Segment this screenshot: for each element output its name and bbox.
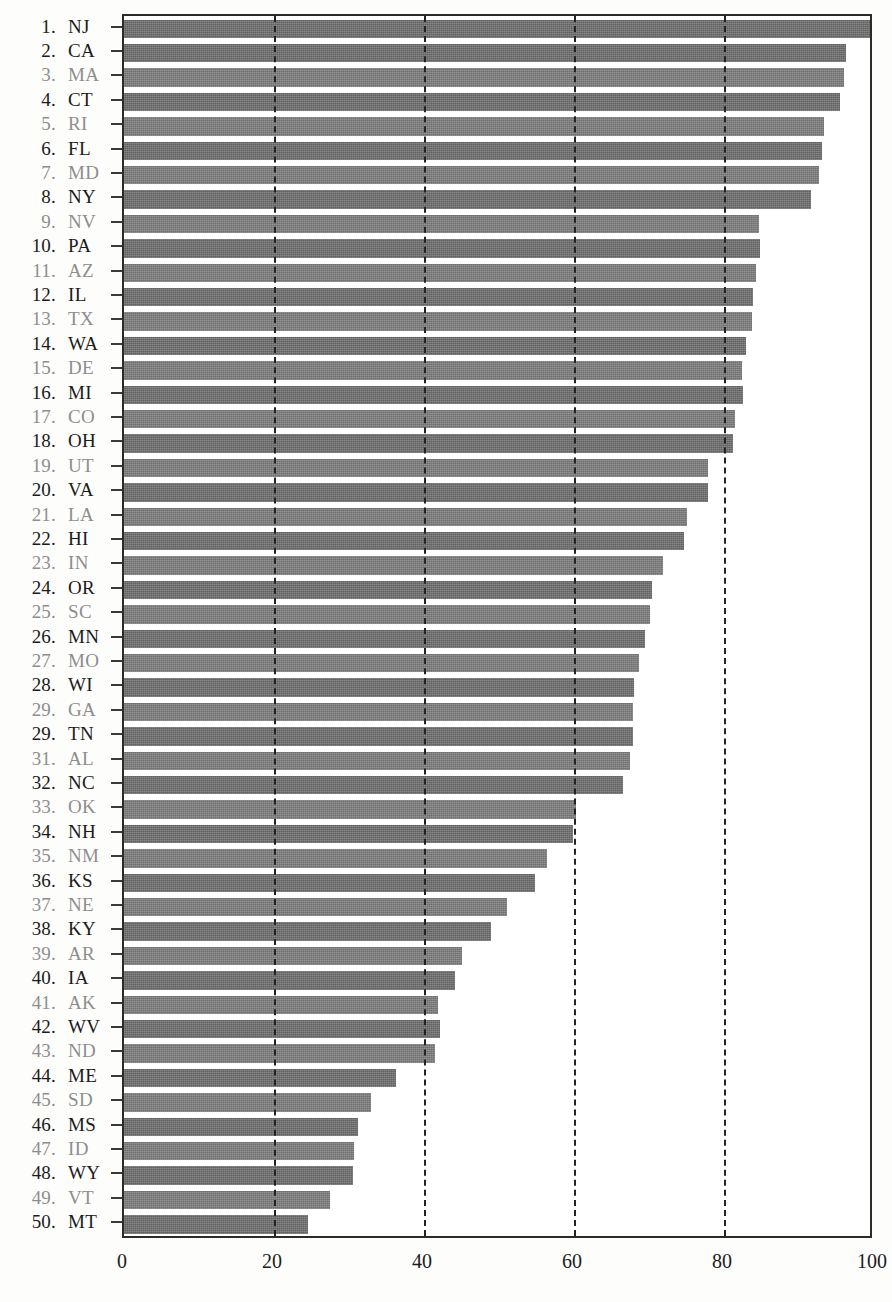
rank-number: 29. <box>10 699 56 721</box>
bar-wi[interactable] <box>124 678 634 697</box>
bar-ny[interactable] <box>124 190 811 209</box>
rank-number: 22. <box>10 528 56 550</box>
y-axis-label-hi: 22.HI <box>0 527 122 551</box>
bar-or[interactable] <box>124 581 652 600</box>
bar-tn[interactable] <box>124 727 633 746</box>
bar-ri[interactable] <box>124 117 824 136</box>
y-axis-label-me: 44.ME <box>0 1064 122 1088</box>
rank-number: 40. <box>10 967 56 989</box>
bar-ok[interactable] <box>124 800 576 819</box>
bar-nd[interactable] <box>124 1044 435 1063</box>
y-axis-tick-mark <box>111 343 122 345</box>
bar-vt[interactable] <box>124 1191 330 1210</box>
bar-ks[interactable] <box>124 874 535 893</box>
bar-tx[interactable] <box>124 312 752 331</box>
bar-il[interactable] <box>124 288 753 307</box>
y-axis-tick-mark <box>111 904 122 906</box>
bar-az[interactable] <box>124 264 756 283</box>
bar-row <box>124 651 872 675</box>
y-axis-label-ma: 3.MA <box>0 63 122 87</box>
rank-number: 11. <box>10 260 56 282</box>
bar-nh[interactable] <box>124 825 573 844</box>
y-axis-label-nj: 1.NJ <box>0 15 122 39</box>
y-axis-label-vt: 49.VT <box>0 1186 122 1210</box>
rank-number: 47. <box>10 1138 56 1160</box>
rank-number: 28. <box>10 674 56 696</box>
y-axis-tick-mark <box>111 977 122 979</box>
bar-wa[interactable] <box>124 337 746 356</box>
bar-ne[interactable] <box>124 898 507 917</box>
y-axis-tick-mark <box>111 782 122 784</box>
bar-de[interactable] <box>124 361 742 380</box>
bar-ca[interactable] <box>124 44 846 63</box>
y-axis-tick-mark <box>111 928 122 930</box>
bar-nm[interactable] <box>124 849 547 868</box>
y-axis-label-ak: 41.AK <box>0 991 122 1015</box>
bar-row <box>124 773 872 797</box>
rank-number: 17. <box>10 406 56 428</box>
bar-mo[interactable] <box>124 654 639 673</box>
bar-me[interactable] <box>124 1069 396 1088</box>
bar-hi[interactable] <box>124 532 684 551</box>
bar-row <box>124 993 872 1017</box>
bar-nj[interactable] <box>124 20 871 39</box>
y-axis-label-va: 20.VA <box>0 478 122 502</box>
bar-al[interactable] <box>124 752 630 771</box>
bar-nc[interactable] <box>124 776 623 795</box>
bar-mn[interactable] <box>124 630 645 649</box>
x-axis-tick-40: 40 <box>412 1250 432 1273</box>
bar-fl[interactable] <box>124 142 822 161</box>
y-axis-label-tx: 13.TX <box>0 307 122 331</box>
bar-ak[interactable] <box>124 996 438 1015</box>
rank-number: 43. <box>10 1040 56 1062</box>
bar-row <box>124 627 872 651</box>
bar-ia[interactable] <box>124 971 455 990</box>
bar-wv[interactable] <box>124 1020 440 1039</box>
rank-number: 50. <box>10 1211 56 1233</box>
bar-sc[interactable] <box>124 605 650 624</box>
bar-wy[interactable] <box>124 1166 353 1185</box>
rank-number: 16. <box>10 382 56 404</box>
y-axis-tick-mark <box>111 1148 122 1150</box>
bar-nv[interactable] <box>124 215 759 234</box>
rank-number: 18. <box>10 430 56 452</box>
bar-mt[interactable] <box>124 1215 308 1234</box>
y-axis-tick-mark <box>111 562 122 564</box>
bar-row <box>124 1212 872 1236</box>
bar-row <box>124 797 872 821</box>
bar-sd[interactable] <box>124 1093 371 1112</box>
bar-in[interactable] <box>124 556 663 575</box>
y-axis-tick-mark <box>111 294 122 296</box>
bar-mi[interactable] <box>124 386 743 405</box>
y-axis-tick-mark <box>111 74 122 76</box>
bar-ut[interactable] <box>124 459 708 478</box>
bar-row <box>124 871 872 895</box>
bar-ga[interactable] <box>124 703 633 722</box>
rank-number: 27. <box>10 650 56 672</box>
rank-number: 38. <box>10 918 56 940</box>
y-axis-label-ms: 46.MS <box>0 1113 122 1137</box>
bar-row <box>124 480 872 504</box>
bar-oh[interactable] <box>124 434 733 453</box>
rank-number: 25. <box>10 601 56 623</box>
bar-ky[interactable] <box>124 922 491 941</box>
bar-row <box>124 334 872 358</box>
y-axis-tick-mark <box>111 733 122 735</box>
bar-ms[interactable] <box>124 1118 358 1137</box>
y-axis-tick-mark <box>111 196 122 198</box>
bar-md[interactable] <box>124 166 819 185</box>
bar-pa[interactable] <box>124 239 760 258</box>
y-axis-label-ri: 5.RI <box>0 112 122 136</box>
bars-container <box>124 16 870 1236</box>
bar-ar[interactable] <box>124 947 462 966</box>
bar-id[interactable] <box>124 1142 354 1161</box>
bar-ma[interactable] <box>124 68 844 87</box>
y-axis-tick-mark <box>111 953 122 955</box>
bar-row <box>124 1041 872 1065</box>
x-axis-tick-60: 60 <box>562 1250 582 1273</box>
bar-la[interactable] <box>124 508 687 527</box>
bar-va[interactable] <box>124 483 708 502</box>
bar-co[interactable] <box>124 410 735 429</box>
rank-number: 21. <box>10 504 56 526</box>
bar-ct[interactable] <box>124 93 840 112</box>
